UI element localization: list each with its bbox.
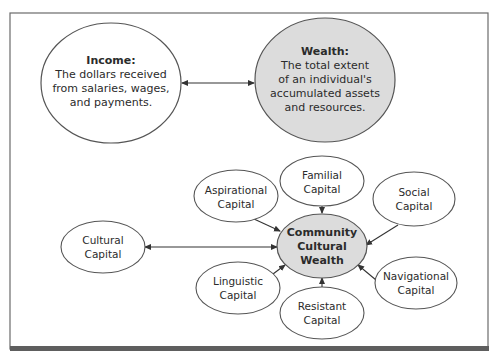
- income-title: Income:: [86, 54, 135, 67]
- wealth-line-2: of an individual's: [278, 73, 372, 86]
- income-line-1: The dollars received: [54, 68, 166, 81]
- ccw-label-2: Cultural: [297, 240, 346, 253]
- cultural-label-1: Cultural: [82, 234, 123, 246]
- income-line-3: and payments.: [70, 96, 152, 109]
- income-node: Income: The dollars received from salari…: [41, 23, 181, 143]
- cultural-label-2: Capital: [85, 248, 122, 260]
- familial-capital-node: Familial Capital: [280, 156, 364, 206]
- aspirational-capital-node: Aspirational Capital: [194, 170, 278, 222]
- diagram-canvas: Income: The dollars received from salari…: [0, 0, 496, 359]
- navigational-label-1: Navigational: [383, 270, 449, 282]
- wealth-line-4: and resources.: [285, 101, 366, 114]
- linguistic-label-2: Capital: [220, 289, 257, 301]
- wealth-title: Wealth:: [301, 45, 349, 58]
- wealth-line-3: accumulated assets: [270, 87, 380, 100]
- familial-label-1: Familial: [302, 169, 342, 181]
- navigational-label-2: Capital: [398, 284, 435, 296]
- social-label-2: Capital: [396, 200, 433, 212]
- wealth-node: Wealth: The total extent of an individua…: [255, 18, 395, 142]
- aspirational-label-1: Aspirational: [205, 184, 267, 196]
- social-label-1: Social: [398, 186, 429, 198]
- ccw-label-3: Wealth: [300, 254, 343, 267]
- familial-label-2: Capital: [304, 183, 341, 195]
- navigational-capital-node: Navigational Capital: [375, 257, 457, 309]
- resistant-label-1: Resistant: [298, 300, 346, 312]
- cultural-capital-node: Cultural Capital: [61, 221, 145, 273]
- wealth-line-1: The total extent: [280, 59, 370, 72]
- social-capital-node: Social Capital: [373, 172, 455, 226]
- income-line-2: from salaries, wages,: [52, 82, 169, 95]
- ccw-label-1: Community: [287, 226, 357, 239]
- resistant-label-2: Capital: [304, 314, 341, 326]
- linguistic-capital-node: Linguistic Capital: [196, 262, 280, 314]
- linguistic-label-1: Linguistic: [213, 275, 263, 287]
- resistant-capital-node: Resistant Capital: [280, 287, 364, 339]
- community-cultural-wealth-node: Community Cultural Wealth: [277, 214, 367, 278]
- aspirational-label-2: Capital: [218, 198, 255, 210]
